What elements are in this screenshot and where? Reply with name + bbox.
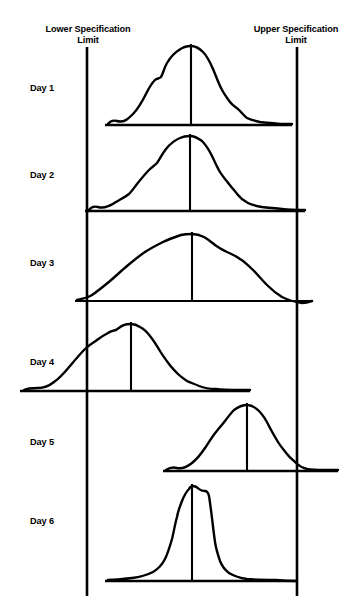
day-5-label: Day 5	[30, 437, 54, 447]
day-6-label: Day 6	[30, 516, 54, 526]
day-2-label: Day 2	[30, 170, 54, 180]
day-4-label: Day 4	[30, 357, 54, 367]
day-3-label: Day 3	[30, 258, 54, 268]
day-5-distribution-curve	[166, 405, 338, 470]
day-1-distribution-curve	[108, 46, 292, 124]
day-4-distribution-group	[20, 322, 250, 391]
day-3-distribution-group	[75, 232, 312, 303]
day-2-distribution-group	[85, 134, 305, 211]
day-5-distribution-group	[163, 403, 338, 471]
day-2-distribution-curve	[89, 136, 305, 210]
day-6-distribution-group	[105, 484, 297, 581]
lower-specification-limit-label: Lower Specification Limit	[18, 24, 158, 46]
day-1-distribution-group	[105, 44, 292, 125]
day-6-distribution-curve	[108, 486, 297, 581]
spc-drawing-canvas	[0, 0, 364, 607]
day-3-distribution-curve	[77, 234, 312, 303]
upper-specification-limit-label: Upper Specification Limit	[232, 24, 360, 46]
day-4-distribution-curve	[24, 324, 250, 390]
spc-distribution-figure: Lower Specification Limit Upper Specific…	[0, 0, 364, 607]
day-1-label: Day 1	[30, 83, 54, 93]
